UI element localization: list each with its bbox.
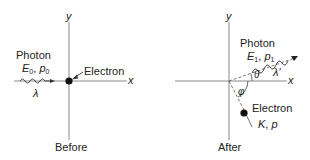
scattered-energy-subscript: 1: [254, 56, 258, 63]
electron-dot-before: [65, 77, 72, 84]
electron-dot-after: [240, 109, 247, 116]
diagram-canvas: [0, 0, 310, 160]
incident-momentum-subscript: 0: [46, 68, 50, 75]
theta-arc: [251, 74, 252, 81]
incident-photon-arrowhead: [50, 79, 55, 83]
theta-angle-label: θ: [254, 70, 259, 80]
incident-wavelength-label: λ: [33, 88, 38, 99]
electron-label-after: Electron: [252, 103, 292, 114]
before-y-axis-label: y: [66, 11, 72, 22]
incident-photon-energy-momentum: E0, p0: [22, 63, 49, 75]
recoil-energy-symbol: K: [258, 118, 265, 130]
recoil-electron-energy-momentum: K, p: [258, 119, 278, 130]
recoil-momentum-symbol: p: [271, 118, 277, 130]
electron-label-before: Electron: [84, 66, 124, 77]
incident-energy-subscript: 0: [29, 68, 33, 75]
before-caption: Before: [55, 142, 87, 153]
after-x-axis-label: x: [288, 75, 294, 86]
after-caption: After: [218, 142, 241, 153]
after-panel: [175, 22, 298, 140]
phi-angle-label: φ: [238, 87, 245, 97]
incident-photon-title: Photon: [16, 50, 51, 61]
electron-pointer-arrowhead: [72, 75, 78, 80]
scattered-momentum-subscript: 1: [271, 56, 275, 63]
before-x-axis-label: x: [128, 75, 134, 86]
scattered-photon-arrowhead: [291, 56, 298, 61]
scattered-photon-energy-momentum: E1, p1: [247, 51, 274, 63]
scattered-photon-title: Photon: [240, 38, 275, 49]
before-panel: [14, 22, 127, 140]
after-y-axis-label: y: [226, 11, 232, 22]
scattered-wavelength-label: λ′: [273, 67, 280, 78]
